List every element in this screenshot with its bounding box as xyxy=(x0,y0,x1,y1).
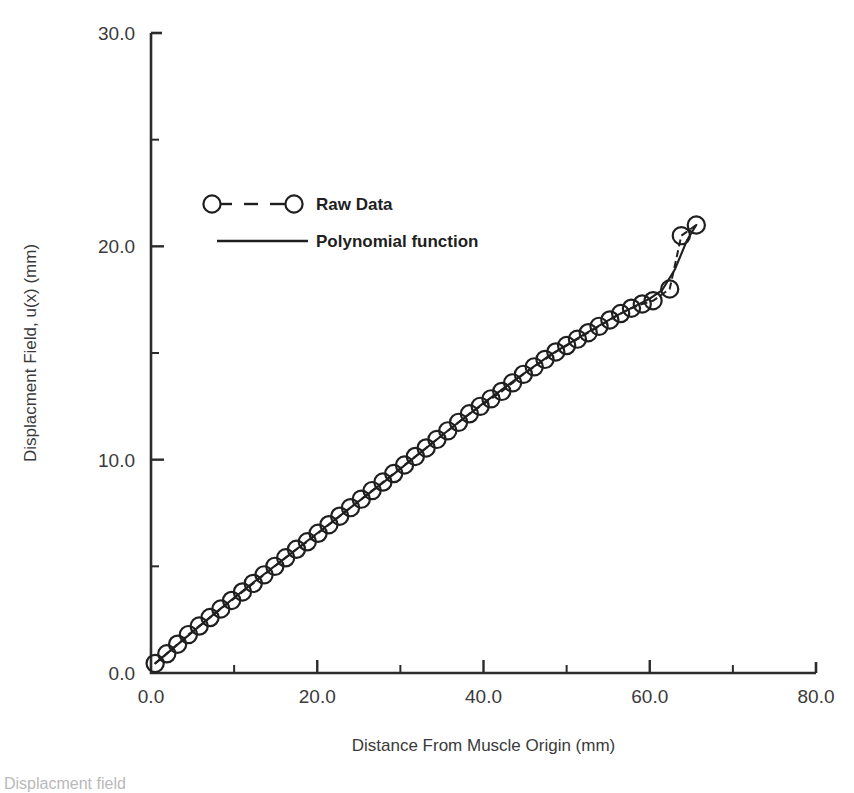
y-tick-label: 20.0 xyxy=(98,236,135,257)
page-caption-strip: Displacment field xyxy=(0,777,854,793)
y-tick-label: 0.0 xyxy=(109,663,135,684)
figure-root: Raw DataPolynomial function 0.020.040.06… xyxy=(0,0,854,793)
x-axis-title: Distance From Muscle Origin (mm) xyxy=(352,736,616,755)
x-tick-label: 80.0 xyxy=(798,686,835,707)
y-tick-label: 30.0 xyxy=(98,23,135,44)
x-tick-label: 20.0 xyxy=(299,686,336,707)
legend-marker-circle-right xyxy=(285,195,302,212)
x-tick-label: 0.0 xyxy=(138,686,164,707)
y-tick-label: 10.0 xyxy=(98,450,135,471)
axes-group xyxy=(151,33,816,673)
axis-spines xyxy=(151,33,816,673)
x-tick-label: 60.0 xyxy=(631,686,668,707)
y-axis-title: Displacment Field, u(x) (mm) xyxy=(21,244,40,462)
displacement-field-chart: Raw DataPolynomial function 0.020.040.06… xyxy=(0,0,854,793)
axis-labels-group: 0.020.040.060.080.00.010.020.030.0Distan… xyxy=(21,23,834,755)
raw-data-marker xyxy=(673,227,690,244)
chart-legend: Raw DataPolynomial function xyxy=(203,195,478,251)
legend-label-raw-data: Raw Data xyxy=(316,195,393,214)
data-series-group xyxy=(147,216,705,672)
legend-label-polynomial: Polynomial function xyxy=(316,232,478,251)
caption-fragment: Displacment field xyxy=(4,777,126,793)
legend-marker-circle-left xyxy=(203,195,220,212)
x-tick-label: 40.0 xyxy=(465,686,502,707)
